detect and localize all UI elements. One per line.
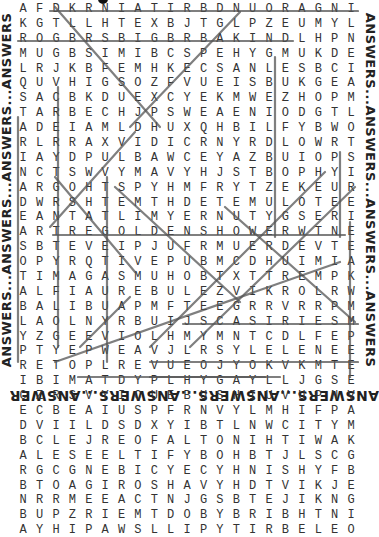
grid-letter: G — [48, 181, 64, 196]
grid-letter: E — [64, 240, 80, 255]
grid-letter: A — [97, 270, 113, 285]
grid-letter: T — [261, 479, 277, 494]
grid-letter: S — [130, 523, 146, 537]
grid-letter: H — [228, 464, 244, 479]
grid-letter: W — [163, 151, 179, 166]
grid-letter: Y — [244, 47, 260, 62]
grid-letter: S — [163, 106, 179, 121]
grid-letter: P — [163, 255, 179, 270]
grid-letter: P — [81, 344, 97, 359]
grid-letter: B — [15, 434, 31, 449]
grid-letter: A — [113, 493, 129, 508]
grid-letter: E — [326, 76, 342, 91]
grid-letter: Y — [228, 136, 244, 151]
grid-letter: L — [113, 151, 129, 166]
grid-letter: P — [195, 523, 211, 537]
grid-letter: E — [64, 330, 80, 345]
grid-letter: B — [261, 166, 277, 181]
grid-letter: T — [310, 508, 326, 523]
grid-letter: S — [113, 270, 129, 285]
grid-letter: E — [113, 508, 129, 523]
grid-letter: C — [277, 419, 293, 434]
grid-letter: E — [310, 181, 326, 196]
grid-letter: H — [212, 225, 228, 240]
grid-letter: I — [343, 508, 359, 523]
grid-letter: R — [277, 285, 293, 300]
grid-letter: B — [31, 374, 47, 389]
grid-letter: A — [228, 374, 244, 389]
grid-letter: A — [15, 449, 31, 464]
grid-letter: Y — [212, 464, 228, 479]
grid-letter: M — [64, 493, 80, 508]
grid-letter: R — [48, 493, 64, 508]
grid-letter: N — [81, 315, 97, 330]
grid-letter: H — [179, 374, 195, 389]
grid-letter: V — [310, 240, 326, 255]
grid-letter: U — [195, 389, 211, 404]
grid-letter: G — [97, 225, 113, 240]
grid-letter: I — [97, 508, 113, 523]
grid-letter: K — [261, 359, 277, 374]
grid-letter: L — [179, 285, 195, 300]
grid-letter: Z — [261, 181, 277, 196]
grid-letter: D — [294, 106, 310, 121]
grid-letter: M — [228, 91, 244, 106]
grid-letter: A — [294, 2, 310, 17]
grid-letter: T — [244, 270, 260, 285]
grid-letter: E — [343, 225, 359, 240]
grid-letter: Y — [244, 374, 260, 389]
grid-letter: E — [81, 449, 97, 464]
grid-letter: L — [343, 106, 359, 121]
grid-letter: A — [146, 151, 162, 166]
grid-letter: K — [81, 91, 97, 106]
grid-letter: V — [97, 166, 113, 181]
grid-letter: V — [146, 344, 162, 359]
grid-letter: Y — [48, 255, 64, 270]
grid-letter: K — [310, 493, 326, 508]
grid-letter: I — [179, 523, 195, 537]
grid-letter: Z — [277, 91, 293, 106]
grid-letter: N — [326, 2, 342, 17]
grid-letter: B — [195, 449, 211, 464]
grid-letter: T — [31, 479, 47, 494]
grid-letter: B — [195, 255, 211, 270]
grid-letter: S — [310, 449, 326, 464]
grid-letter: S — [15, 91, 31, 106]
grid-letter: L — [81, 17, 97, 32]
grid-letter: N — [244, 106, 260, 121]
grid-letter: G — [81, 270, 97, 285]
grid-letter: E — [195, 196, 211, 211]
grid-letter: V — [81, 240, 97, 255]
grid-letter: N — [326, 389, 342, 404]
grid-letter: R — [343, 181, 359, 196]
grid-letter: L — [15, 315, 31, 330]
grid-letter: M — [310, 270, 326, 285]
grid-letter: I — [343, 166, 359, 181]
grid-letter: Y — [15, 330, 31, 345]
grid-letter: N — [326, 493, 342, 508]
grid-letter: I — [294, 255, 310, 270]
grid-letter: T — [261, 449, 277, 464]
grid-letter: H — [310, 166, 326, 181]
grid-letter: A — [81, 285, 97, 300]
grid-letter: B — [228, 121, 244, 136]
grid-letter: E — [343, 240, 359, 255]
grid-letter: U — [326, 181, 342, 196]
grid-letter: M — [212, 240, 228, 255]
grid-letter: Y — [212, 508, 228, 523]
grid-letter: E — [113, 434, 129, 449]
grid-letter: Y — [261, 210, 277, 225]
grid-letter: M — [310, 359, 326, 374]
grid-letter: H — [81, 181, 97, 196]
grid-letter: W — [244, 225, 260, 240]
grid-letter: R — [310, 300, 326, 315]
grid-letter: T — [48, 359, 64, 374]
grid-letter: U — [277, 151, 293, 166]
grid-letter: A — [15, 225, 31, 240]
grid-letter: U — [31, 47, 47, 62]
grid-letter: C — [163, 91, 179, 106]
grid-letter: O — [294, 136, 310, 151]
grid-letter: F — [97, 62, 113, 77]
grid-letter: B — [163, 17, 179, 32]
grid-letter: S — [113, 76, 129, 91]
